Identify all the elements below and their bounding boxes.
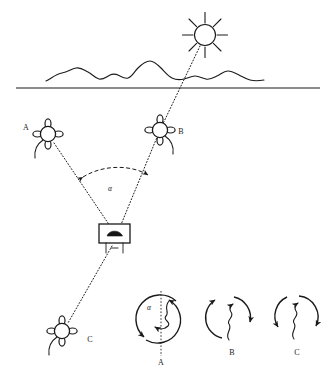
organism-B xyxy=(145,115,175,154)
diagram-canvas: α A B xyxy=(0,0,335,376)
bottom-panel-A: α A xyxy=(136,291,181,367)
detector-device xyxy=(99,224,130,253)
panel-A-label: A xyxy=(158,358,164,367)
angle-alpha-arc xyxy=(83,167,148,177)
organism-A xyxy=(33,119,63,158)
panel-A-alpha-label: α xyxy=(147,303,152,312)
ray-A-to-detector xyxy=(54,143,110,226)
figure-root: α A B xyxy=(0,0,335,376)
organism-A-label: A xyxy=(23,123,29,132)
bottom-panel-C: C xyxy=(275,296,318,357)
organism-C-label: C xyxy=(87,335,92,344)
angle-alpha-label: α xyxy=(108,184,113,193)
sun-icon xyxy=(183,13,228,58)
panel-B-label: B xyxy=(229,348,234,357)
mountain-silhouette xyxy=(46,61,264,81)
organism-B-label: B xyxy=(178,127,183,136)
organism-C xyxy=(47,316,77,355)
panel-C-label: C xyxy=(294,348,299,357)
ray-detector-to-C xyxy=(68,246,112,323)
bottom-panel-B: B xyxy=(206,297,251,357)
